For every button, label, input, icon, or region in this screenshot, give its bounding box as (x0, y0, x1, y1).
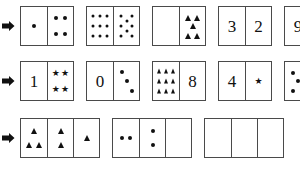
pip-dot (54, 16, 58, 20)
star-mark: ★ (52, 69, 60, 78)
domino-card[interactable] (112, 118, 192, 158)
pip-dot (120, 136, 124, 140)
card-cell-empty[interactable] (231, 119, 257, 157)
card-cell[interactable]: 0 (87, 62, 113, 100)
worksheet-row: 3292 (0, 6, 300, 46)
triangle-mark (185, 15, 191, 21)
pip-dot (119, 14, 122, 17)
cell-mark-group (23, 9, 45, 43)
card-cell[interactable] (47, 7, 73, 45)
domino-card[interactable] (204, 118, 284, 158)
card-cell-empty[interactable] (205, 119, 231, 157)
domino-card[interactable] (20, 118, 100, 158)
card-cell[interactable]: 8 (179, 62, 205, 100)
card-cell[interactable]: 9 (285, 7, 300, 45)
pip-dot (105, 14, 108, 17)
pip-dot (32, 24, 36, 28)
pip-dot (92, 14, 95, 17)
card-cell-empty[interactable] (153, 7, 179, 45)
cell-numeral: 2 (254, 18, 263, 35)
card-cell[interactable] (21, 119, 47, 157)
card-cell[interactable]: 1 (21, 62, 47, 100)
pip-dot (99, 14, 102, 17)
pip-dot (131, 25, 134, 28)
card-cell-empty[interactable] (165, 119, 191, 157)
cell-mark-group (50, 9, 71, 43)
triangle-mark (164, 89, 168, 94)
pip-dot (99, 35, 102, 38)
triangle-mark (190, 23, 196, 29)
triangle-mark (194, 33, 200, 39)
card-cell[interactable] (113, 62, 139, 100)
pip-dot (105, 35, 108, 38)
card-cell[interactable]: 4 (219, 62, 245, 100)
pip-dot (92, 25, 95, 28)
domino-card[interactable] (86, 6, 140, 46)
card-cell[interactable]: ★★★★ (47, 62, 73, 100)
domino-card[interactable]: 1 (284, 61, 300, 101)
domino-card[interactable]: 1★★★★ (20, 61, 74, 101)
card-cell[interactable]: 3 (219, 7, 245, 45)
pip-dot (92, 35, 95, 38)
triangle-mark (185, 33, 191, 39)
pip-dot (119, 25, 122, 28)
triangle-mark (36, 142, 42, 148)
card-cell[interactable]: 2 (245, 7, 271, 45)
card-cell[interactable] (47, 119, 73, 157)
card-cell[interactable] (285, 62, 300, 100)
pip-dot (125, 79, 129, 83)
pip-dot (151, 143, 155, 147)
cell-numeral: 8 (188, 73, 197, 90)
worksheet-row: 1★★★★084★1 (0, 61, 300, 101)
cell-numeral: 1 (30, 73, 39, 90)
card-cell[interactable] (113, 119, 139, 157)
card-cell[interactable] (21, 7, 47, 45)
pip-dot (128, 136, 132, 140)
pip-dot (119, 35, 122, 38)
pip-dot (125, 19, 128, 22)
card-cell[interactable] (153, 62, 179, 100)
card-cell[interactable]: ★ (245, 62, 271, 100)
cell-mark-group (142, 121, 163, 155)
domino-card[interactable] (20, 6, 74, 46)
star-mark: ★ (52, 84, 60, 93)
triangle-mark (171, 89, 175, 94)
cell-mark-group (115, 121, 137, 155)
card-cell[interactable] (179, 7, 205, 45)
pip-dot (54, 32, 58, 36)
triangle-mark (58, 128, 64, 134)
card-cell[interactable] (87, 7, 113, 45)
triangle-mark (171, 79, 175, 84)
right-arrow-icon (0, 6, 16, 46)
pip-dot (131, 35, 134, 38)
domino-card[interactable]: 92 (284, 6, 300, 46)
worksheet-row (0, 118, 296, 158)
domino-card[interactable]: 8 (152, 61, 206, 101)
cell-mark-group: ★★★★ (50, 64, 71, 98)
triangle-mark (157, 79, 161, 84)
pip-dot (99, 25, 102, 28)
triangle-mark (31, 128, 37, 134)
domino-card[interactable]: 32 (218, 6, 272, 46)
cell-mark-group (155, 64, 177, 98)
card-cell[interactable] (73, 119, 99, 157)
cell-numeral: 9 (294, 18, 300, 35)
worksheet-sheet: 32921★★★★084★1 (0, 0, 300, 169)
domino-card[interactable] (152, 6, 206, 46)
card-cell[interactable] (139, 119, 165, 157)
triangle-mark (194, 15, 200, 21)
pip-dot (296, 79, 300, 83)
cell-numeral: 4 (228, 73, 237, 90)
pip-dot (291, 71, 295, 75)
domino-card[interactable]: 0 (86, 61, 140, 101)
triangle-mark (157, 89, 161, 94)
domino-card[interactable]: 4★ (218, 61, 272, 101)
cell-mark-group (116, 9, 137, 43)
right-arrow-icon (0, 118, 16, 158)
card-cell[interactable] (113, 7, 139, 45)
triangle-mark (157, 68, 161, 73)
card-cell-empty[interactable] (257, 119, 283, 157)
pip-dot (125, 30, 128, 33)
star-mark: ★ (61, 84, 69, 93)
triangle-mark (58, 142, 64, 148)
